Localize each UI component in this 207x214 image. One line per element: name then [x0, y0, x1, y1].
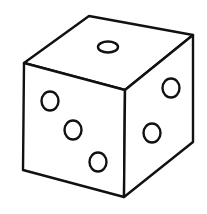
die-drawing [0, 0, 207, 214]
die-illustration: Outline drawing of a cube-shaped die in … [0, 0, 207, 214]
